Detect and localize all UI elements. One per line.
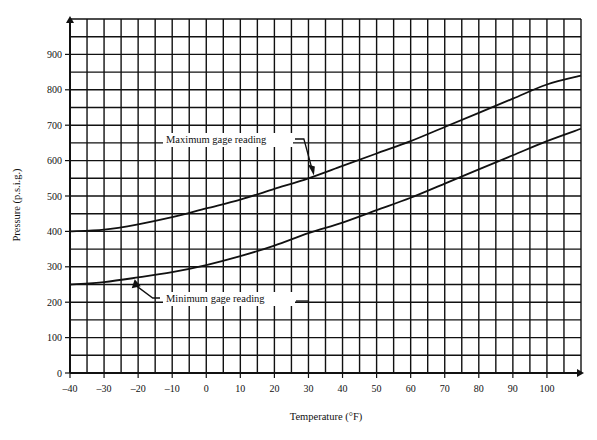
max-gage-annotation: Maximum gage reading (166, 134, 267, 145)
pressure-temperature-chart: –40–30–20–100102030405060708090100 01002… (0, 0, 597, 440)
y-tick-label: 400 (47, 226, 62, 237)
y-axis-title: Pressure (p.s.i.g.) (11, 168, 23, 242)
x-tick-label: –20 (130, 383, 146, 394)
x-axis-tick-labels: –40–30–20–100102030405060708090100 (62, 373, 555, 394)
x-tick-label: –10 (164, 383, 180, 394)
y-tick-label: 900 (47, 49, 62, 60)
y-tick-label: 200 (47, 297, 62, 308)
min-leader-arrow-icon (132, 279, 141, 288)
min-leader-line (137, 286, 160, 298)
y-tick-label: 600 (47, 155, 62, 166)
x-tick-label: –40 (62, 383, 78, 394)
x-tick-label: 20 (269, 383, 279, 394)
x-tick-label: 0 (204, 383, 209, 394)
x-tick-label: 50 (372, 383, 382, 394)
y-tick-label: 100 (47, 332, 62, 343)
x-tick-label: 30 (303, 383, 313, 394)
y-tick-label: 300 (47, 261, 62, 272)
x-tick-label: –30 (96, 383, 112, 394)
x-tick-label: 70 (440, 383, 450, 394)
x-tick-label: 90 (508, 383, 518, 394)
x-tick-label: 80 (474, 383, 484, 394)
y-tick-label: 0 (57, 368, 62, 379)
y-axis-tick-labels: 0100200300400500600700800900 (47, 49, 70, 379)
y-tick-label: 800 (47, 84, 62, 95)
chart-grid (70, 19, 581, 373)
x-axis-title: Temperature (°F) (290, 411, 363, 423)
min-gage-annotation: Minimum gage reading (166, 293, 265, 304)
x-tick-label: 10 (235, 383, 245, 394)
y-tick-label: 500 (47, 191, 62, 202)
x-tick-label: 100 (539, 383, 554, 394)
x-tick-label: 40 (338, 383, 348, 394)
y-tick-label: 700 (47, 120, 62, 131)
x-tick-label: 60 (406, 383, 416, 394)
